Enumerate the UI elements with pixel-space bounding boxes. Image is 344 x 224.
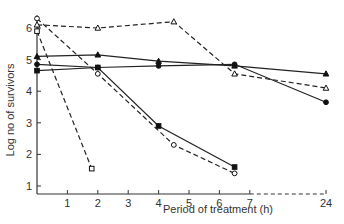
open-triangle-marker [232,71,238,76]
y-tick-label: 2 [26,148,32,160]
series-open-square-dashed [35,29,94,171]
open-square-marker [35,29,40,34]
open-triangle-marker [323,85,329,90]
filled-square-marker [35,68,40,73]
filled-square-marker [96,65,101,70]
filled-circle-marker [35,62,40,67]
x-tick-label: 24 [320,197,332,209]
data-series [34,16,329,176]
series-filled-square-solid [35,65,237,169]
y-axis-label: Log no of survivors [4,63,16,156]
series-line [37,19,235,174]
x-tick-label: 2 [95,197,101,209]
filled-triangle-marker [34,53,40,58]
axes: 123456123456724 [26,15,332,209]
series-filled-triangle-solid [34,52,329,76]
series-line [37,68,235,168]
filled-square-marker [156,124,161,129]
open-circle-marker [95,71,100,76]
open-circle-marker [232,171,237,176]
filled-circle-marker [324,100,329,105]
y-tick-label: 4 [26,85,32,97]
open-square-marker [89,166,94,171]
filled-triangle-marker [156,58,162,63]
x-axis-label: Period of treatment (h) [163,203,273,215]
x-tick-label: 3 [125,197,131,209]
open-circle-marker [171,143,176,148]
open-triangle-marker [34,22,40,27]
open-triangle-marker [95,25,101,30]
y-tick-label: 1 [26,180,32,192]
series-line [37,31,92,168]
x-tick-label: 4 [156,197,162,209]
filled-circle-marker [156,64,161,69]
x-tick-label: 1 [64,197,70,209]
filled-square-marker [232,165,237,170]
y-tick-label: 6 [26,22,32,34]
y-tick-label: 5 [26,54,32,66]
series-open-triangle-dashed [34,19,329,91]
open-circle-marker [35,16,40,21]
filled-triangle-marker [323,71,329,76]
survival-chart: 123456123456724 Log no of survivors Peri… [0,0,344,224]
open-triangle-marker [171,19,177,24]
filled-circle-marker [232,62,237,67]
filled-triangle-marker [95,52,101,57]
y-tick-label: 3 [26,117,32,129]
